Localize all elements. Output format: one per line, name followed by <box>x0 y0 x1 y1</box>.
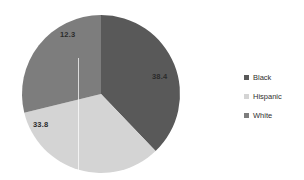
legend-item-label: White <box>253 112 272 120</box>
pie-slice-group <box>22 15 180 173</box>
legend-item-label: Hispanic <box>253 93 282 101</box>
chart-legend: Black Hispanic White <box>244 68 302 125</box>
legend-item-black[interactable]: Black <box>244 68 302 87</box>
legend-item-white[interactable]: White <box>244 106 302 125</box>
legend-swatch-icon <box>244 94 249 99</box>
legend-item-hispanic[interactable]: Hispanic <box>244 87 302 106</box>
slice-data-label: 38.4 <box>152 73 167 81</box>
legend-item-label: Black <box>253 74 271 82</box>
slice-data-label: 12.3 <box>60 31 75 39</box>
legend-swatch-icon <box>244 75 249 80</box>
gridline-artifact <box>78 58 79 173</box>
pie-chart: 38.4 33.8 12.3 Black Hispanic White <box>0 0 304 180</box>
legend-swatch-icon <box>244 113 249 118</box>
slice-data-label: 33.8 <box>33 121 48 129</box>
